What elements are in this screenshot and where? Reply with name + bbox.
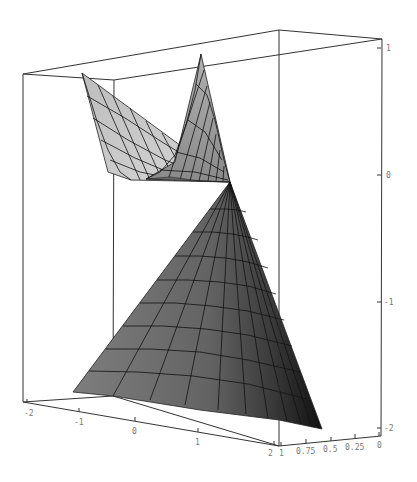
y-tick-label: 0.5	[323, 445, 338, 454]
surface-plot-3d: 1 0 -1 -2 -2 -1 0 1 2 1 0.75 0.5 0.25 0	[0, 0, 417, 482]
y-tick-label: 0	[377, 441, 382, 450]
x-tick-label: -1	[74, 418, 84, 427]
x-tick-label: 0	[132, 427, 137, 436]
z-tick-label: 1	[386, 44, 391, 53]
plot-canvas: 1 0 -1 -2 -2 -1 0 1 2 1 0.75 0.5 0.25 0	[0, 0, 417, 482]
y-axis: 1 0.75 0.5 0.25 0	[279, 432, 382, 458]
y-tick-label: 0.25	[345, 443, 364, 452]
x-tick-label: 1	[195, 438, 200, 447]
z-tick-label: -2	[384, 424, 394, 433]
lower-cone	[73, 182, 322, 429]
y-tick-label: 1	[279, 449, 284, 458]
x-tick-label: -2	[24, 409, 34, 418]
z-tick-label: 0	[386, 171, 391, 180]
z-axis: 1 0 -1 -2	[377, 44, 394, 433]
y-tick-label: 0.75	[296, 447, 315, 456]
x-tick-label: 2	[268, 449, 273, 458]
z-tick-label: -1	[384, 298, 394, 307]
